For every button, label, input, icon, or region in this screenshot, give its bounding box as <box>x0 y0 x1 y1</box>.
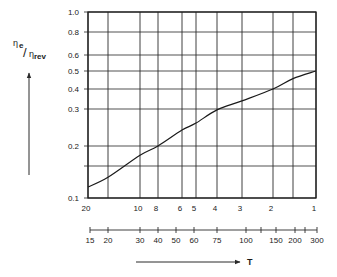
x-ratio-tick-label: 3 <box>238 204 243 213</box>
t-axis-tick-label: 40 <box>154 236 163 245</box>
t-axis-tick-label: 300 <box>310 236 324 245</box>
y-tick-label: 0.8 <box>68 28 80 37</box>
t-axis-tick-label: 50 <box>172 236 181 245</box>
y-tick-label: 0.4 <box>68 85 80 94</box>
y-label-denominator-sub: rev <box>34 52 47 61</box>
t-axis-tick-label: 30 <box>136 236 145 245</box>
t-axis-tick-label: 60 <box>190 236 199 245</box>
x-ratio-tick-label: 20 <box>82 204 91 213</box>
t-axis-tick-label: 20 <box>104 236 113 245</box>
x-ratio-tick-label: 8 <box>154 204 159 213</box>
y-tick-label: 0.2 <box>68 142 80 151</box>
t-axis-tick-label: 15 <box>86 236 95 245</box>
y-tick-label: 0.3 <box>68 105 80 114</box>
y-label-numerator: η <box>13 38 18 48</box>
x-ratio-tick-label: 5 <box>192 204 197 213</box>
y-tick-label: 1.0 <box>68 8 80 17</box>
chart-canvas: η e / η rev T 1.00.80.60.50.40.30.20.120… <box>0 0 337 277</box>
x-axis-label: T <box>247 257 253 267</box>
x-ratio-tick-label: 6 <box>178 204 183 213</box>
y-tick-label: 0.6 <box>68 51 80 60</box>
plot-frame <box>88 12 316 198</box>
x-ratio-tick-label: 2 <box>269 204 274 213</box>
t-axis: 15203040506075100150200300 <box>86 227 325 245</box>
t-axis-tick-label: 200 <box>288 236 302 245</box>
y-tick-label: 0.5 <box>68 67 80 76</box>
y-axis-label: η e / η rev <box>13 38 47 61</box>
t-axis-tick-label: 75 <box>213 236 222 245</box>
efficiency-ratio-curve <box>88 71 316 187</box>
t-axis-tick-label: 100 <box>239 236 253 245</box>
y-label-slash: / <box>23 45 27 60</box>
x-ratio-tick-label: 4 <box>213 204 218 213</box>
x-ratio-tick-label: 1 <box>312 204 317 213</box>
chart-figure: η e / η rev T 1.00.80.60.50.40.30.20.120… <box>0 0 337 277</box>
tick-labels: 1.00.80.60.50.40.30.20.120108654321 <box>68 8 317 213</box>
y-tick-label: 0.1 <box>68 194 80 203</box>
x-ratio-tick-label: 10 <box>134 204 143 213</box>
t-axis-tick-label: 150 <box>269 236 283 245</box>
data-series <box>88 71 316 187</box>
